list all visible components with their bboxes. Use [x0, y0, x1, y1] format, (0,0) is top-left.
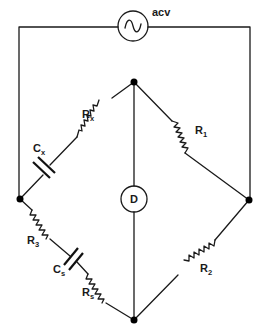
wire-r3-cs: [50, 239, 70, 256]
node-left: [17, 196, 24, 203]
detector-label: D: [130, 193, 138, 205]
resistor-r2-icon: [184, 240, 215, 261]
wire-r1-r: [185, 153, 249, 200]
cs-label: Cs: [53, 263, 65, 278]
wire-rs-b: [106, 303, 134, 320]
arm-left-upper: Rx Cx: [20, 82, 134, 199]
ac-source-icon: [118, 11, 148, 41]
arm-right-lower: R2: [134, 200, 249, 320]
arm-right-upper: R1: [134, 82, 249, 200]
wire-r2-b: [134, 275, 178, 320]
node-top: [131, 79, 138, 86]
wire-r-r2: [215, 200, 249, 240]
detector-branch: D: [121, 82, 147, 320]
wire-l-cx: [20, 175, 43, 199]
node-right: [246, 197, 253, 204]
cx-label: Cx: [33, 142, 46, 157]
capacitor-cx-icon: [33, 157, 55, 178]
arm-left-lower: R3 Cs Rs: [20, 199, 134, 320]
supply-wire-right: [148, 27, 250, 200]
resistor-r1-icon: [172, 121, 188, 153]
bridge-circuit-diagram: acv D Rx Cx R1: [0, 0, 264, 335]
ac-source-label: acv: [152, 6, 171, 18]
wire-t-r1: [134, 82, 172, 121]
r1-label: R1: [195, 124, 207, 139]
node-bottom: [131, 317, 138, 324]
r3-label: R3: [27, 234, 39, 249]
wire-cs-rs: [77, 262, 88, 274]
wire-cx-rx: [50, 137, 77, 165]
supply-wire-left: [19, 27, 118, 199]
r2-label: R2: [200, 262, 212, 277]
capacitor-cs-icon: [64, 248, 83, 270]
wire-rx-t: [112, 82, 134, 98]
